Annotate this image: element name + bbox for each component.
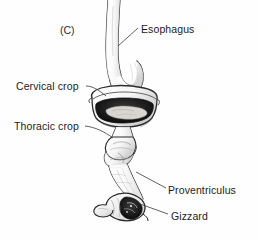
thoracic-crop-structure bbox=[104, 127, 136, 168]
anatomy-figure: (C) Esophagus Cervical crop Thoracic cro… bbox=[0, 0, 258, 240]
esophagus-structure bbox=[106, 0, 121, 81]
leader-thoracic-crop bbox=[85, 126, 113, 138]
panel-tag: (C) bbox=[60, 24, 75, 36]
label-cervical-crop: Cervical crop bbox=[16, 81, 79, 92]
leader-esophagus bbox=[118, 28, 138, 46]
label-gizzard: Gizzard bbox=[171, 211, 208, 222]
leader-proventriculus bbox=[136, 172, 166, 188]
label-esophagus: Esophagus bbox=[141, 24, 194, 35]
label-thoracic-crop: Thoracic crop bbox=[14, 121, 79, 132]
label-proventriculus: Proventriculus bbox=[168, 185, 236, 196]
cervical-crop-structure bbox=[89, 86, 159, 128]
